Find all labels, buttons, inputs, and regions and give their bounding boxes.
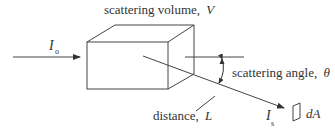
angle-arrowhead-top: [220, 58, 225, 64]
area-label: dA: [306, 106, 321, 121]
scattering-diagram: scattering volume, V I o scattering angl…: [0, 0, 335, 133]
distance-label: distance, L: [153, 108, 212, 123]
scattered-intensity-subscript: s: [271, 119, 274, 128]
scattering-volume-box: [87, 25, 194, 89]
incident-intensity-subscript: o: [55, 47, 59, 56]
area-element-icon: [293, 103, 300, 121]
scattered-beam-arrow: [143, 56, 284, 108]
incident-intensity-label: I: [48, 38, 55, 53]
angle-label: scattering angle, θ: [232, 65, 330, 80]
volume-label: scattering volume, V: [104, 2, 216, 17]
